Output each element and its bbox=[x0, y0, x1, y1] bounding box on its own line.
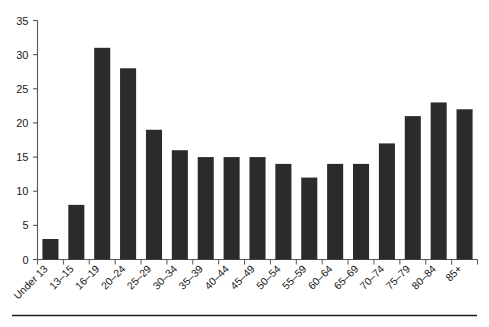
y-tick-label: 0 bbox=[22, 254, 28, 266]
x-tick-label: 35–39 bbox=[176, 262, 205, 291]
bar bbox=[275, 164, 291, 260]
bar bbox=[249, 157, 265, 259]
bar bbox=[379, 143, 395, 259]
bar bbox=[68, 205, 84, 260]
x-tick-label: 30–34 bbox=[150, 262, 179, 291]
bar bbox=[172, 150, 188, 259]
bar bbox=[120, 68, 136, 259]
bar bbox=[405, 116, 421, 259]
bar-series bbox=[42, 48, 472, 260]
y-tick-label: 35 bbox=[16, 15, 28, 27]
y-tick-label: 10 bbox=[16, 185, 28, 197]
bar-chart-figure: 05101520253035 Under 1313–1516–1920–2425… bbox=[0, 0, 489, 327]
x-tick-label: 85+ bbox=[443, 262, 464, 283]
x-tick-label: 20–24 bbox=[98, 262, 127, 291]
bar bbox=[94, 48, 110, 260]
x-tick-label: 50–54 bbox=[254, 262, 283, 291]
x-axis-tick-labels: Under 1313–1516–1920–2425–2930–3435–3940… bbox=[11, 262, 464, 301]
x-tick-label: 80–84 bbox=[409, 262, 438, 291]
bar bbox=[327, 164, 343, 260]
bar bbox=[301, 178, 317, 260]
y-axis-tick-labels: 05101520253035 bbox=[16, 15, 28, 266]
bar bbox=[198, 157, 214, 259]
y-tick-label: 15 bbox=[16, 151, 28, 163]
x-tick-label: 13–15 bbox=[47, 262, 76, 291]
x-tick-label: 70–74 bbox=[357, 262, 386, 291]
x-tick-label: 40–44 bbox=[202, 262, 231, 291]
x-axis-ticks bbox=[38, 260, 478, 265]
bar bbox=[224, 157, 240, 259]
x-tick-label: 45–49 bbox=[228, 262, 257, 291]
bar bbox=[42, 239, 58, 259]
bar bbox=[353, 164, 369, 260]
y-tick-label: 20 bbox=[16, 117, 28, 129]
bar bbox=[457, 109, 473, 259]
x-tick-label: 16–19 bbox=[72, 262, 101, 291]
bar bbox=[146, 130, 162, 260]
y-tick-label: 30 bbox=[16, 49, 28, 61]
x-tick-label: Under 13 bbox=[11, 262, 50, 301]
x-tick-label: 55–59 bbox=[280, 262, 309, 291]
x-tick-label: 65–69 bbox=[331, 262, 360, 291]
bar bbox=[431, 102, 447, 259]
y-tick-label: 25 bbox=[16, 83, 28, 95]
y-axis-ticks bbox=[33, 21, 38, 260]
x-tick-label: 25–29 bbox=[124, 262, 153, 291]
x-tick-label: 75–79 bbox=[383, 262, 412, 291]
y-tick-label: 5 bbox=[22, 219, 28, 231]
chart-plot-area: 05101520253035 Under 1313–1516–1920–2425… bbox=[0, 0, 489, 327]
x-tick-label: 60–64 bbox=[305, 262, 334, 291]
